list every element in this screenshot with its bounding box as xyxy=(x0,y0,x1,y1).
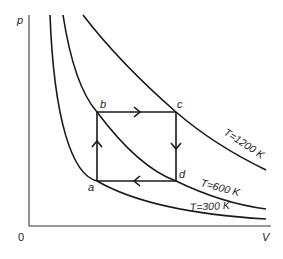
point-label-d: d xyxy=(179,168,186,180)
x-axis-label: V xyxy=(262,231,271,243)
point-label-a: a xyxy=(88,181,94,193)
pv-diagram: p V 0 a b c d T=1200 K T=600 K T=300 K xyxy=(0,0,283,259)
cycle-abcd xyxy=(92,107,181,186)
origin-label: 0 xyxy=(18,231,24,243)
point-label-c: c xyxy=(177,98,183,110)
isotherm-label-300k: T=300 K xyxy=(189,199,231,213)
point-label-b: b xyxy=(100,98,106,110)
isotherm-label-600k: T=600 K xyxy=(199,176,242,198)
y-axis-label: p xyxy=(16,14,23,26)
isotherm-label-1200k: T=1200 K xyxy=(222,126,268,162)
